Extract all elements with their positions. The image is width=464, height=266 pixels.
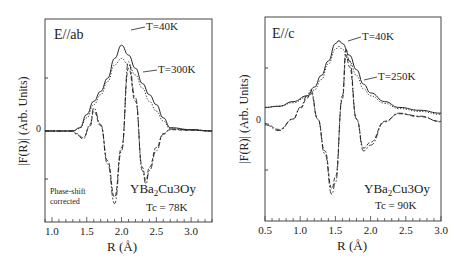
right-panel: 0 E//c T=40K T=250K YBa2Cu3Oy Tc = 90K 0… [237, 17, 448, 253]
right-compound-label: YBa2Cu3Oy [364, 181, 430, 198]
curve-dashed [45, 68, 212, 197]
left-x-axis-label: R (Å) [107, 239, 137, 254]
left-annotation-arrow [131, 27, 145, 30]
left-annotation-t300: T=300K [158, 63, 195, 75]
right-annotation-t250: T=250K [378, 70, 415, 82]
left-x-ticks [45, 217, 212, 222]
x-tick-label: 1.5 [329, 224, 343, 236]
x-tick-label: 2.5 [149, 225, 163, 237]
left-y-zero-label: 0 [36, 123, 41, 134]
x-tick-label: 2.5 [399, 224, 413, 236]
left-annotation-t40: T=40K [146, 20, 178, 32]
left-x-tick-labels: 1.01.52.02.53.0 [45, 225, 198, 237]
right-panel-label: E//c [272, 26, 295, 41]
x-tick-label: 3.0 [434, 224, 448, 236]
right-x-axis-label: R (Å) [337, 238, 367, 253]
right-y-zero-label: 0 [256, 114, 261, 125]
right-annotation-arrow [348, 37, 361, 41]
x-tick-label: 1.5 [80, 225, 94, 237]
x-tick-label: 2.0 [115, 225, 129, 237]
exafs-figure: 0 E//ab T=40K T=300K Phase-shift correct… [0, 0, 464, 266]
left-tc-label: Tc = 78K [146, 201, 188, 213]
left-panel: 0 E//ab T=40K T=300K Phase-shift correct… [16, 19, 212, 254]
left-panel-label: E//ab [54, 27, 84, 42]
x-tick-label: 2.0 [364, 224, 378, 236]
x-tick-label: 0.5 [258, 224, 272, 236]
phase-shift-note-2: corrected [50, 197, 80, 206]
right-x-tick-labels: 0.51.01.52.02.53.0 [258, 224, 448, 236]
right-y-axis-label: |F(R)| (Arb. Units) [237, 74, 251, 163]
left-compound-label: YBa2Cu3Oy [130, 181, 196, 198]
left-y-axis-label: |F(R)| (Arb. Units) [16, 76, 30, 165]
x-tick-label: 3.0 [184, 225, 198, 237]
curve-solid [45, 45, 212, 131]
right-curves [265, 41, 441, 195]
phase-shift-note-1: Phase-shift [50, 187, 86, 196]
left-annotation-arrow [143, 70, 157, 72]
right-x-ticks [265, 216, 441, 221]
right-tc-label: Tc = 90K [375, 199, 417, 211]
x-tick-label: 1.0 [293, 224, 307, 236]
right-annotation-arrow [364, 77, 377, 80]
right-annotation-t40: T=40K [362, 30, 394, 42]
x-tick-label: 1.0 [45, 225, 59, 237]
